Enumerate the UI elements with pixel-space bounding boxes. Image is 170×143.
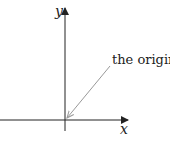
y-axis-label: y <box>54 3 64 19</box>
coordinate-axes-diagram: x y the origin <box>0 0 170 143</box>
origin-annotation-label: the origin <box>112 52 170 67</box>
x-axis-label: x <box>120 121 128 137</box>
origin-pointer-arrow <box>67 66 110 118</box>
